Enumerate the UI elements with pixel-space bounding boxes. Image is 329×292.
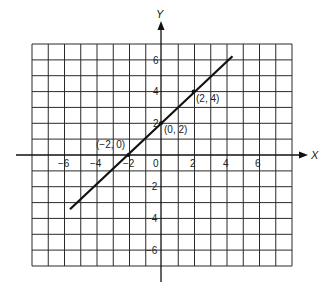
y-tick-label: 4: [153, 86, 159, 97]
y-axis-arrow-icon: [158, 21, 165, 30]
y-axis-label: Y: [156, 8, 164, 20]
coordinate-graph: Y X −6 −4 −2 0 2 4 6 6 4 2 −2 −4 −6 (−2,…: [0, 0, 329, 292]
x-tick-label: 4: [223, 158, 229, 169]
x-axis-label: X: [310, 149, 319, 161]
x-tick-label: −6: [58, 158, 70, 169]
y-tick-label: 2: [153, 118, 159, 129]
annotation-neg2-0: (−2, 0): [96, 139, 125, 150]
point-2-4: [192, 90, 196, 94]
point-0-2: [159, 121, 163, 125]
x-tick-label: 6: [255, 158, 261, 169]
y-tick-label: −2: [146, 181, 158, 192]
point-neg2-0: [127, 153, 131, 157]
annotation-0-2: (0, 2): [164, 124, 187, 135]
x-tick-label: 2: [190, 158, 196, 169]
x-axis-arrow-icon: [299, 152, 308, 159]
x-tick-label: −2: [123, 158, 135, 169]
annotation-2-4: (2, 4): [196, 93, 219, 104]
y-tick-label: 6: [153, 55, 159, 66]
y-tick-label: −6: [146, 245, 158, 256]
x-tick-label: 0: [153, 158, 159, 169]
y-tick-label: −4: [146, 213, 158, 224]
x-tick-label: −4: [90, 158, 102, 169]
